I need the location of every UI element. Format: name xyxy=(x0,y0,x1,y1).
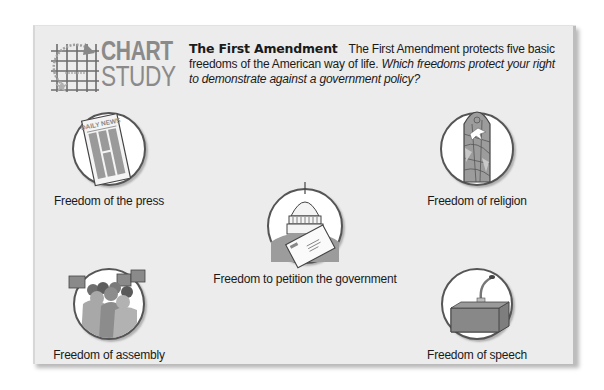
chart-grid-icon xyxy=(49,41,101,93)
podium-microphone-icon xyxy=(443,270,511,338)
freedom-label: Freedom of assembly xyxy=(49,348,169,362)
freedom-press: DAILY NEWS Freedom of the press xyxy=(49,112,169,208)
capitol-letter-icon xyxy=(269,190,341,262)
freedom-religion: Freedom of religion xyxy=(417,112,537,208)
newspaper-icon: DAILY NEWS xyxy=(74,114,144,184)
freedom-label: Freedom of religion xyxy=(417,194,537,208)
religion-circle xyxy=(440,112,514,186)
petition-circle xyxy=(267,188,343,264)
chart-study-wordmark: CHART STUDY xyxy=(101,39,176,89)
press-circle: DAILY NEWS xyxy=(72,112,146,186)
freedom-speech: Freedom of speech xyxy=(417,268,537,362)
freedom-label: Freedom of the press xyxy=(49,194,169,208)
intro-paragraph: The First Amendment The First Amendment … xyxy=(189,41,559,87)
page: CHART STUDY The First Amendment The Firs… xyxy=(0,0,604,390)
freedom-petition: Freedom to petition the government xyxy=(205,188,405,286)
speech-circle xyxy=(441,268,513,340)
logo-line-2: STUDY xyxy=(101,64,176,89)
crowd-with-signs-icon xyxy=(75,270,143,338)
chart-study-logo: CHART STUDY xyxy=(49,41,199,93)
freedom-label: Freedom of speech xyxy=(417,348,537,362)
freedom-assembly: Freedom of assembly xyxy=(49,268,169,362)
stained-glass-window-icon xyxy=(442,114,512,184)
section-title: The First Amendment xyxy=(189,41,338,56)
assembly-circle xyxy=(73,268,145,340)
freedom-label: Freedom to petition the government xyxy=(205,272,405,286)
chart-study-card: CHART STUDY The First Amendment The Firs… xyxy=(33,25,576,364)
